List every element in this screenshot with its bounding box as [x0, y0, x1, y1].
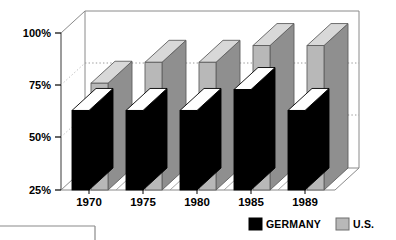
legend-label-germany: GERMANY [266, 218, 321, 230]
bar-front-face [288, 110, 305, 190]
y-axis-ticks [55, 33, 61, 190]
bar-front-face [234, 90, 251, 190]
x-axis-label-1975: 1975 [130, 196, 156, 208]
depth-edge-top [61, 11, 85, 33]
legend-swatch-germany [249, 218, 262, 230]
bar-chart-3d: 100% 75% 50% 25% 1970 1975 1980 1985 [0, 0, 396, 240]
bars-layer [72, 24, 348, 190]
cropped-box-bottom-left [0, 226, 95, 240]
y-axis-label-25: 25% [29, 184, 51, 196]
gridline-connector-75 [61, 63, 85, 85]
x-axis-ticks [89, 190, 305, 194]
x-axis-label-1970: 1970 [76, 196, 102, 208]
chart-legend: GERMANY U.S. [249, 218, 374, 230]
chart-container: 100% 75% 50% 25% 1970 1975 1980 1985 [0, 0, 396, 240]
legend-swatch-us [336, 218, 349, 230]
x-axis-label-1980: 1980 [184, 196, 210, 208]
bar-front-face [180, 110, 197, 190]
x-axis-label-1985: 1985 [238, 196, 264, 208]
x-axis-label-1989: 1989 [292, 196, 318, 208]
y-axis-labels: 100% 75% 50% 25% [23, 27, 51, 196]
bar-front-face [126, 110, 143, 190]
bar-front-face [72, 110, 89, 190]
x-axis-labels: 1970 1975 1980 1985 1989 [76, 196, 318, 208]
y-axis-label-100: 100% [23, 27, 51, 39]
legend-label-us: U.S. [353, 218, 374, 230]
bar-1985-germany [234, 68, 275, 190]
y-axis-label-75: 75% [29, 79, 51, 91]
y-axis-label-50: 50% [29, 131, 51, 143]
